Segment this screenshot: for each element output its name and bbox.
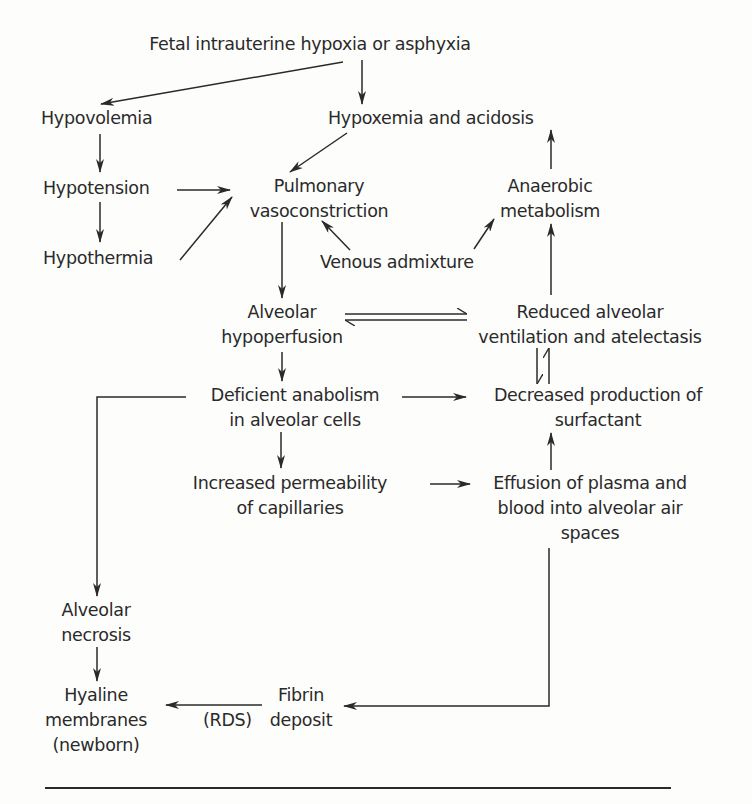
node-label-line-2: vasoconstriction xyxy=(250,199,389,224)
node-label-line-2: ventilation and atelectasis xyxy=(478,325,701,350)
node-label: Hypothermia xyxy=(43,246,153,271)
node-effusion: Effusion of plasma and blood into alveol… xyxy=(493,471,687,546)
node-hypovolemia: Hypovolemia xyxy=(41,106,152,131)
node-label-line-1: Alveolar xyxy=(61,598,131,623)
node-label: Hypovolemia xyxy=(41,106,152,131)
node-label-line-2: blood into alveolar air xyxy=(493,496,687,521)
arrow-hypoxemia-to-pulmonary xyxy=(290,133,347,172)
node-anaerobic-metabolism: Anaerobic metabolism xyxy=(500,174,600,224)
node-hypothermia: Hypothermia xyxy=(43,246,153,271)
node-reduced-ventilation: Reduced alveolar ventilation and atelect… xyxy=(478,300,701,350)
node-alveolar-hypoperfusion: Alveolar hypoperfusion xyxy=(221,300,342,350)
arrow-fetal-to-hypovolemia xyxy=(101,62,343,104)
node-label-line-1: Effusion of plasma and xyxy=(493,471,687,496)
node-label-line-2: surfactant xyxy=(494,408,702,433)
node-alveolar-necrosis: Alveolar necrosis xyxy=(61,598,131,648)
node-label-line-1: Pulmonary xyxy=(250,174,389,199)
node-label: Hypoxemia and acidosis xyxy=(328,106,534,131)
node-label: Venous admixture xyxy=(320,250,474,275)
node-label: Fetal intrauterine hypoxia or asphyxia xyxy=(149,32,470,57)
node-label-line-1: Decreased production of xyxy=(494,383,702,408)
arrow-venous-to-anaerobic xyxy=(474,219,494,249)
node-label-line-2: of capillaries xyxy=(193,496,387,521)
node-label-line-1: Increased permeability xyxy=(193,471,387,496)
node-label: Hypotension xyxy=(43,176,150,201)
node-deficient-anabolism: Deficient anabolism in alveolar cells xyxy=(211,383,380,433)
node-fibrin-deposit: Fibrin deposit xyxy=(270,683,332,733)
node-label-line-2: hypoperfusion xyxy=(221,325,342,350)
node-pulmonary-vasoconstriction: Pulmonary vasoconstriction xyxy=(250,174,389,224)
node-label-line-1: Alveolar xyxy=(221,300,342,325)
arrow-venous-to-pulmonary xyxy=(322,221,350,250)
node-increased-permeability: Increased permeability of capillaries xyxy=(193,471,387,521)
node-venous-admixture: Venous admixture xyxy=(320,250,474,275)
node-hypotension: Hypotension xyxy=(43,176,150,201)
node-fetal-hypoxia: Fetal intrauterine hypoxia or asphyxia xyxy=(149,32,470,57)
arrow-hypothermia-to-pulmonary xyxy=(180,197,232,260)
node-label-line-3: spaces xyxy=(493,521,687,546)
node-hyaline-membranes: Hyaline membranes (newborn) xyxy=(45,683,147,758)
node-label-line-1: Deficient anabolism xyxy=(211,383,380,408)
node-label-line-2: deposit xyxy=(270,708,332,733)
node-label-line-1: Reduced alveolar xyxy=(478,300,701,325)
arrow-deficient-to-necrosis xyxy=(97,397,186,596)
edge-label-rds: (RDS) xyxy=(203,708,252,733)
node-label-line-2: necrosis xyxy=(61,623,131,648)
node-label-line-2: metabolism xyxy=(500,199,600,224)
node-label-line-1: Anaerobic xyxy=(500,174,600,199)
node-decreased-surfactant: Decreased production of surfactant xyxy=(494,383,702,433)
node-label-line-2: membranes xyxy=(45,708,147,733)
node-label-line-1: Hyaline xyxy=(45,683,147,708)
node-label-line-1: Fibrin xyxy=(270,683,332,708)
node-hypoxemia: Hypoxemia and acidosis xyxy=(328,106,534,131)
flowchart-canvas: Fetal intrauterine hypoxia or asphyxia H… xyxy=(0,0,752,804)
arrow-effusion-to-fibrin xyxy=(344,548,549,706)
node-label-line-3: (newborn) xyxy=(45,733,147,758)
node-label-line-2: in alveolar cells xyxy=(211,408,380,433)
